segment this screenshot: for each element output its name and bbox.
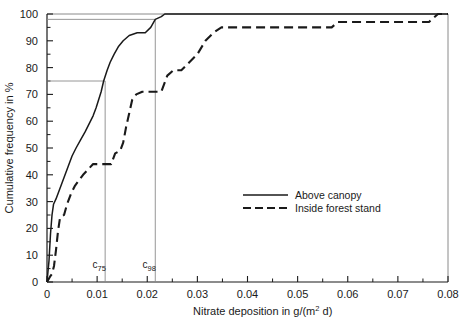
legend-label-inside-forest-stand: Inside forest stand [295,202,381,214]
x-tick-label-0.08: 0.08 [437,288,458,300]
x-axis-title-prefix: Nitrate deposition in g/(m [193,305,315,317]
x-tick-label-0.06: 0.06 [337,288,358,300]
y-tick-label-10: 10 [26,249,38,261]
legend-label-above-canopy: Above canopy [295,189,362,201]
y-tick-label-40: 40 [26,169,38,181]
x-axis-tick-labels: 00.010.020.030.040.050.060.070.08 [44,288,459,300]
y-tick-label-30: 30 [26,196,38,208]
y-tick-label-100: 100 [20,8,38,20]
y-tick-label-70: 70 [26,88,38,100]
x-tick-label-0.07: 0.07 [387,288,408,300]
y-tick-label-50: 50 [26,142,38,154]
annotation-label-subscript: 75 [97,264,105,273]
x-axis-title: Nitrate deposition in g/(m2 d) [193,304,332,317]
x-tick-label-0: 0 [44,288,50,300]
cumulative-frequency-chart: 0102030405060708090100 00.010.020.030.04… [0,0,464,329]
y-tick-label-80: 80 [26,62,38,74]
x-tick-label-0.01: 0.01 [86,288,107,300]
y-tick-label-90: 90 [26,35,38,47]
y-axis-title: Cumulative frequency in % [3,82,15,213]
x-tick-label-0.03: 0.03 [187,288,208,300]
y-tick-label-60: 60 [26,115,38,127]
y-tick-label-20: 20 [26,222,38,234]
y-tick-label-0: 0 [32,276,38,288]
x-tick-label-0.05: 0.05 [287,288,308,300]
x-axis-title-suffix: d) [319,305,332,317]
x-tick-label-0.02: 0.02 [137,288,158,300]
annotation-label-subscript: 98 [148,264,156,273]
x-tick-label-0.04: 0.04 [237,288,258,300]
